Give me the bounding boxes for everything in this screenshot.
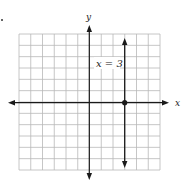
line-x-equals-3 bbox=[122, 38, 127, 168]
x-axis-right-arrow-icon bbox=[162, 100, 169, 105]
item-marker bbox=[1, 19, 3, 21]
coordinate-plane: x y x = 3 bbox=[0, 0, 189, 189]
line-label: x = 3 bbox=[96, 58, 123, 69]
x-axis-left-arrow-icon bbox=[8, 100, 15, 105]
y-axis: y bbox=[85, 12, 92, 180]
line-up-arrow-icon bbox=[122, 38, 127, 45]
x-intercept-point bbox=[122, 100, 127, 105]
x-axis: x bbox=[8, 98, 180, 108]
x-axis-label: x bbox=[175, 98, 180, 108]
line-down-arrow-icon bbox=[122, 161, 127, 168]
y-axis-down-arrow-icon bbox=[87, 173, 92, 180]
y-axis-up-arrow-icon bbox=[87, 25, 92, 32]
y-axis-label: y bbox=[85, 12, 92, 22]
